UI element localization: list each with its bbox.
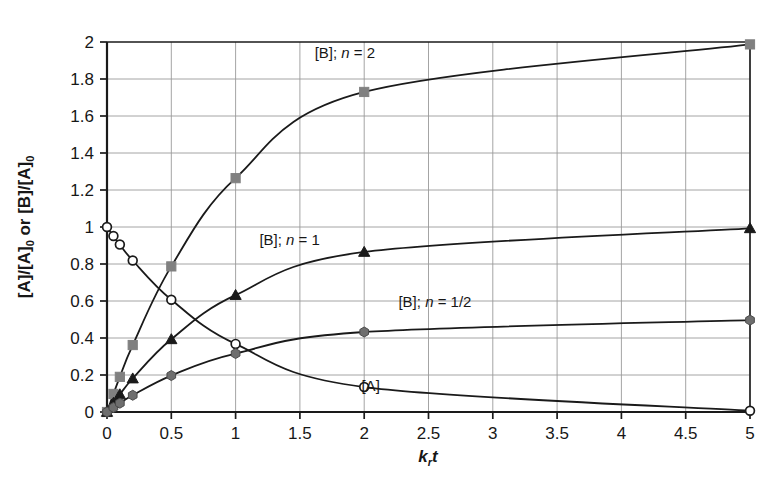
data-point-square bbox=[745, 40, 754, 49]
x-tick-label: 0.5 bbox=[159, 424, 183, 443]
data-point-open-circle bbox=[103, 223, 112, 232]
data-point-open-circle bbox=[231, 340, 240, 349]
data-point-hexagon bbox=[167, 371, 176, 381]
x-tick-label: 0 bbox=[102, 424, 111, 443]
y-tick-label: 1.2 bbox=[70, 181, 94, 200]
x-tick-label: 1.5 bbox=[288, 424, 312, 443]
svg-text:[A]/[A]0 or [B]/[A]0: [A]/[A]0 or [B]/[A]0 bbox=[15, 156, 36, 299]
x-tick-label: 4 bbox=[617, 424, 626, 443]
y-tick-label: 0.2 bbox=[70, 366, 94, 385]
data-point-hexagon bbox=[746, 315, 755, 325]
y-tick-label: 1.8 bbox=[70, 70, 94, 89]
data-point-square bbox=[231, 174, 240, 183]
x-tick-label: 1 bbox=[231, 424, 240, 443]
y-tick-label: 0.6 bbox=[70, 292, 94, 311]
data-point-hexagon bbox=[360, 327, 369, 337]
y-axis-title: [A]/[A]0 or [B]/[A]0 bbox=[15, 156, 36, 299]
x-tick-label: 4.5 bbox=[674, 424, 698, 443]
y-tick-label: 1.4 bbox=[70, 144, 94, 163]
y-tick-label: 2 bbox=[85, 33, 94, 52]
series-label-0: [A] bbox=[361, 377, 379, 394]
data-point-open-circle bbox=[167, 295, 176, 304]
data-point-open-circle bbox=[115, 240, 124, 249]
x-tick-label: 3.5 bbox=[545, 424, 569, 443]
data-point-open-circle bbox=[128, 256, 137, 265]
data-point-square bbox=[115, 372, 124, 381]
data-point-open-circle bbox=[109, 232, 118, 241]
data-point-hexagon bbox=[128, 390, 137, 400]
data-point-hexagon bbox=[231, 349, 240, 359]
data-point-square bbox=[128, 340, 137, 349]
concentration-vs-time-plot: 00.20.40.60.811.21.41.61.82 00.511.522.5… bbox=[0, 0, 776, 498]
x-tick-label: 2.5 bbox=[417, 424, 441, 443]
data-point-hexagon bbox=[116, 398, 125, 408]
y-tick-label: 0 bbox=[85, 403, 94, 422]
y-tick-label: 0.8 bbox=[70, 255, 94, 274]
x-tick-label: 5 bbox=[745, 424, 754, 443]
y-tick-label: 1 bbox=[85, 218, 94, 237]
x-tick-label: 2 bbox=[359, 424, 368, 443]
data-point-square bbox=[360, 87, 369, 96]
y-tick-label: 1.6 bbox=[70, 107, 94, 126]
data-point-square bbox=[167, 262, 176, 271]
data-point-open-circle bbox=[746, 406, 755, 415]
y-tick-label: 0.4 bbox=[70, 329, 94, 348]
x-tick-label: 3 bbox=[488, 424, 497, 443]
series-label-3: [B]; n = 1/2 bbox=[398, 293, 471, 310]
series-label-2: [B]; n = 1 bbox=[259, 231, 319, 248]
series-label-1: [B]; n = 2 bbox=[315, 44, 375, 61]
chart-figure: 00.20.40.60.811.21.41.61.82 00.511.522.5… bbox=[0, 0, 776, 498]
